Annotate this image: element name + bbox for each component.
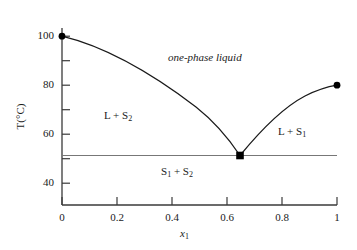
y-tick-label-100: 100 <box>24 30 54 41</box>
region-label-one-phase-liquid: one-phase liquid <box>168 52 242 63</box>
region-label-liquid-plus-solid-2: L + S2 <box>104 110 132 121</box>
y-tick-label-40: 40 <box>24 177 54 188</box>
region-label-s2-sub: 2 <box>189 170 193 179</box>
region-label-s1-sub: 1 <box>167 170 171 179</box>
x-axis-title: x1 <box>180 228 189 239</box>
region-label-l-s1-sub: 1 <box>302 130 306 139</box>
phase-diagram-figure: 100 80 60 40 0 0.2 0.4 0.6 0.8 1 T(°C) x… <box>0 0 357 250</box>
x-tick-label-1: 1 <box>322 212 352 223</box>
x-tick-label-0.4: 0.4 <box>157 212 187 223</box>
y-tick-label-80: 80 <box>24 79 54 90</box>
y-axis-ticks <box>62 36 70 183</box>
melting-point-component-1-marker <box>334 82 341 89</box>
x-axis-ticks <box>62 197 337 205</box>
region-label-liquid-plus-solid-1: L + S1 <box>278 126 306 137</box>
right-liquidus-curve <box>240 85 337 155</box>
x-tick-label-0.6: 0.6 <box>212 212 242 223</box>
x-tick-label-0: 0 <box>47 212 77 223</box>
eutectic-point-marker <box>236 152 244 160</box>
region-label-solid-1-plus-solid-2: S1 + S2 <box>161 166 193 177</box>
region-label-s2-main: + S <box>171 165 189 177</box>
melting-point-component-2-marker <box>59 33 66 40</box>
y-tick-label-60: 60 <box>24 128 54 139</box>
region-label-l-s2-main: L + S <box>104 109 128 121</box>
x-tick-label-0.2: 0.2 <box>102 212 132 223</box>
x-axis-title-subscript: 1 <box>185 232 189 241</box>
y-axis-title: T(°C) <box>15 95 26 139</box>
region-label-l-s2-sub: 2 <box>128 114 132 123</box>
x-tick-label-0.8: 0.8 <box>267 212 297 223</box>
region-label-l-s1-main: L + S <box>278 125 302 137</box>
